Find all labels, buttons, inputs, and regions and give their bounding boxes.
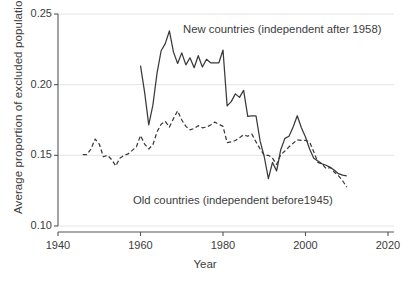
y-tick-label-0.20: 0.20 [18,78,52,90]
x-tick-label-1960: 1960 [121,239,161,251]
x-tick-label-2020: 2020 [368,239,408,251]
series-line-old-countries [83,111,347,187]
series-lines [83,31,347,187]
x-tick-label-2000: 2000 [286,239,326,251]
x-axis-title: Year [0,258,410,270]
chart-figure: Average proportion of excluded populatio… [0,0,410,286]
y-tick-label-0.15: 0.15 [18,148,52,160]
x-tick-label-1980: 1980 [203,239,243,251]
series-label-new-countries: New countries (independent after 1958) [183,23,381,35]
series-label-old-countries: Old countries (independent before1945) [133,194,333,206]
y-axis-title: Average proportion of excluded populatio… [12,14,24,214]
y-tick-label-0.10: 0.10 [18,219,52,231]
x-tick-label-1940: 1940 [38,239,78,251]
y-tick-label-0.25: 0.25 [18,7,52,19]
